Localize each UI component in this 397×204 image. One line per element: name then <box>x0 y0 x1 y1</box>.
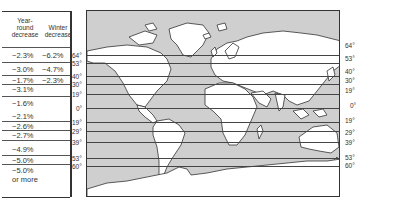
year-round-note: or more <box>12 175 38 184</box>
year-round-value: −2.6% <box>12 122 33 131</box>
winter-value: −2.3% <box>42 76 63 85</box>
latitude-line <box>87 142 339 143</box>
year-round-value: −5.0% <box>12 166 33 175</box>
year-round-value: −1.6% <box>12 99 33 108</box>
year-round-value: −3.1% <box>12 85 33 94</box>
latitude-label: 19° <box>345 117 355 124</box>
row-divider <box>2 96 70 97</box>
latitude-label: 19° <box>345 87 355 94</box>
row-divider <box>2 140 70 141</box>
latitude-line <box>87 76 339 77</box>
year-round-value: −2.7% <box>12 131 33 140</box>
year-round-value: −5.0% <box>12 156 33 165</box>
latitude-line <box>87 55 339 56</box>
year-round-value: −4.9% <box>12 145 33 154</box>
latitude-line <box>87 63 339 64</box>
latitude-line <box>87 84 339 85</box>
latitude-label: 40° <box>345 68 355 75</box>
latitude-label: 0° <box>76 105 82 112</box>
latitude-label: 29° <box>345 129 355 136</box>
latitude-label: 53° <box>72 60 82 67</box>
latitude-label: 53° <box>345 154 355 161</box>
winter-value: −6.2% <box>42 51 63 60</box>
latitude-label: 0° <box>350 102 356 109</box>
latitude-label: 53° <box>72 155 82 162</box>
latitude-label: 29° <box>72 128 82 135</box>
latitude-line <box>87 108 339 109</box>
header-year-round: Year-rounddecrease <box>6 17 44 38</box>
latitude-label: 64° <box>72 52 82 59</box>
latitude-label: 30° <box>345 77 355 84</box>
latitude-line <box>87 122 339 123</box>
latitude-label: 39° <box>72 139 82 146</box>
row-divider <box>2 47 70 48</box>
row-divider <box>2 62 70 63</box>
year-round-value: −1.7% <box>12 76 33 85</box>
winter-value: −4.7% <box>42 65 63 74</box>
year-round-value: −3.0% <box>12 65 33 74</box>
year-round-value: −2.1% <box>12 112 33 121</box>
world-map-land-icon <box>87 11 340 197</box>
latitude-label: 19° <box>72 119 82 126</box>
year-round-value: −2.3% <box>12 51 33 60</box>
world-map <box>86 10 340 197</box>
latitude-line <box>87 158 339 159</box>
latitude-line <box>87 166 339 167</box>
header-winter: Winterdecrease <box>44 24 72 38</box>
latitude-label: 60° <box>72 163 82 170</box>
latitude-label: 30° <box>72 81 82 88</box>
latitude-label: 64° <box>345 42 355 49</box>
latitude-line <box>87 94 339 95</box>
latitude-label: 40° <box>72 73 82 80</box>
latitude-label: 19° <box>72 91 82 98</box>
latitude-label: 60° <box>345 162 355 169</box>
map-title <box>150 0 152 3</box>
latitude-line <box>87 131 339 132</box>
latitude-label: 39° <box>345 139 355 146</box>
latitude-label: 53° <box>345 55 355 62</box>
